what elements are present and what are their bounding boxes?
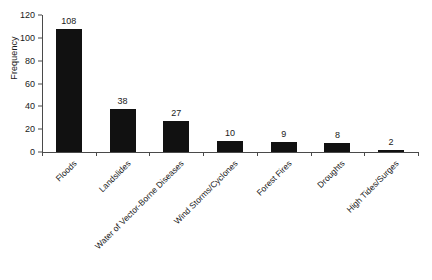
bar	[110, 109, 136, 152]
x-axis-tick-mark	[418, 152, 419, 156]
x-axis-category-label-text: Landslides	[96, 157, 133, 194]
x-axis-category-label-text: Droughts	[316, 157, 349, 190]
y-axis-tick-label: 20	[3, 125, 35, 134]
y-axis-tick-label: 80	[3, 56, 35, 65]
bar-value-label: 9	[281, 130, 286, 139]
bar	[163, 121, 189, 152]
y-axis-tick-label: 120	[3, 11, 35, 20]
y-axis-tick-label: 60	[3, 79, 35, 88]
bar-slot: 108	[42, 15, 96, 152]
x-axis-tick-mark	[257, 152, 258, 156]
x-axis-category-label-text: Floods	[53, 157, 80, 184]
x-axis-category-label-text: Forest Fires	[254, 157, 295, 198]
bar-value-label: 27	[171, 109, 181, 118]
x-axis-line	[42, 152, 418, 153]
y-axis-tick-label: 100	[3, 33, 35, 42]
x-axis-tick-mark	[311, 152, 312, 156]
bar-value-label: 8	[335, 131, 340, 140]
x-axis-tick-mark	[42, 152, 43, 156]
bar-slot: 38	[96, 15, 150, 152]
plot-area: 108382710982	[42, 15, 418, 152]
bar-value-label: 108	[61, 17, 76, 26]
x-axis-tick-mark	[149, 152, 150, 156]
bar-chart: Frequency 020406080100120 108382710982 F…	[0, 0, 432, 280]
y-axis-tick-group: 020406080100120	[0, 0, 42, 280]
bar	[56, 29, 82, 152]
x-axis-tick-mark	[364, 152, 365, 156]
x-axis-tick-mark	[203, 152, 204, 156]
x-axis-category-label-text: High Tides/Surges	[345, 157, 403, 215]
bar-value-label: 2	[389, 138, 394, 147]
x-axis-category-label-text: Water of Vector-Borne Diseases	[93, 157, 187, 251]
x-axis-tick-mark	[96, 152, 97, 156]
y-axis-tick-label: 0	[3, 148, 35, 157]
bar-value-label: 10	[225, 129, 235, 138]
bar-slot: 2	[364, 15, 418, 152]
y-axis-tick-label: 40	[3, 102, 35, 111]
bar-value-label: 38	[118, 97, 128, 106]
